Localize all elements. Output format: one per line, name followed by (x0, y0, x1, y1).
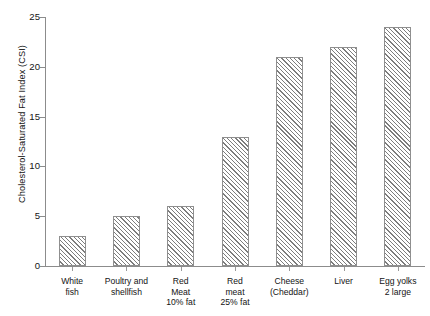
bar (330, 47, 357, 266)
y-axis-tick-label: 10 (18, 161, 40, 171)
y-axis-tick-mark (40, 17, 45, 18)
bar (59, 236, 86, 266)
x-axis-tick-mark (398, 267, 399, 271)
y-axis-tick-labels: 0510152025 (18, 0, 40, 316)
bar (384, 27, 411, 266)
bar (222, 137, 249, 266)
x-axis-category-label: Red Meat 10% fat (154, 276, 208, 308)
plot-area (45, 17, 425, 266)
y-axis-tick-label: 5 (18, 211, 40, 221)
x-axis-tick-mark (289, 267, 290, 271)
y-axis-tick-mark (40, 266, 45, 267)
bar (276, 57, 303, 266)
x-axis-tick-mark (344, 267, 345, 271)
y-axis-tick-mark (40, 166, 45, 167)
x-axis-tick-mark (181, 267, 182, 271)
x-axis-category-label: Egg yolks 2 large (371, 276, 425, 297)
x-axis-category-label: Cheese (Cheddar) (262, 276, 316, 297)
y-axis-tick-mark (40, 67, 45, 68)
y-axis-tick-label: 15 (18, 112, 40, 122)
x-axis-category-label: Liver (316, 276, 370, 287)
x-axis-category-label: White fish (45, 276, 99, 297)
bar (167, 206, 194, 266)
y-axis-tick-mark (40, 117, 45, 118)
x-axis-tick-mark (72, 267, 73, 271)
y-axis-tick-label: 20 (18, 62, 40, 72)
bar-chart: Cholesterol-Saturated Fat Index (CSI) 05… (0, 0, 430, 316)
y-axis-tick-mark (40, 216, 45, 217)
x-axis-tick-mark (126, 267, 127, 271)
x-axis-category-label: Red meat 25% fat (208, 276, 262, 308)
x-axis-category-label: Poultry and shellfish (99, 276, 153, 297)
x-axis-tick-mark (235, 267, 236, 271)
x-axis-tick-labels: White fishPoultry and shellfishRed Meat … (45, 276, 425, 316)
y-axis-tick-label: 25 (18, 12, 40, 22)
y-axis-tick-label: 0 (18, 261, 40, 271)
bar (113, 216, 140, 266)
